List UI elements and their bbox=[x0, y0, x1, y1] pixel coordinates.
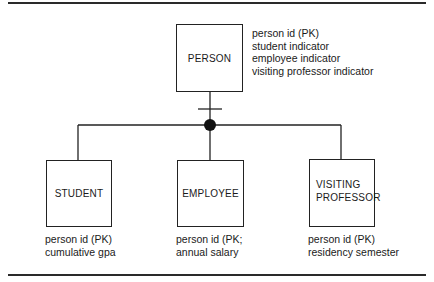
entity-name-line: VISITING bbox=[316, 178, 381, 191]
visiting-professor-attributes: person id (PK) residency semester bbox=[308, 233, 399, 258]
entity-name: PERSON bbox=[188, 52, 231, 65]
entity-name: VISITING PROFESSOR bbox=[316, 178, 381, 204]
attribute: residency semester bbox=[308, 246, 399, 259]
attribute: cumulative gpa bbox=[45, 246, 116, 259]
student-attributes: person id (PK) cumulative gpa bbox=[45, 233, 116, 258]
bottom-rule bbox=[8, 274, 426, 276]
entity-name-line: PROFESSOR bbox=[316, 191, 381, 204]
attribute: person id (PK) bbox=[45, 233, 116, 246]
attribute: visiting professor indicator bbox=[252, 65, 373, 78]
entity-student: STUDENT bbox=[46, 160, 112, 227]
entity-employee: EMPLOYEE bbox=[177, 160, 244, 227]
person-attributes: person id (PK) student indicator employe… bbox=[252, 27, 373, 77]
entity-name: EMPLOYEE bbox=[182, 187, 239, 200]
entity-visiting-professor: VISITING PROFESSOR bbox=[309, 159, 375, 227]
employee-attributes: person id (PK; annual salary bbox=[176, 233, 243, 258]
attribute: person id (PK) bbox=[308, 233, 399, 246]
entity-person: PERSON bbox=[176, 24, 243, 92]
attribute: person id (PK; bbox=[176, 233, 243, 246]
attribute: person id (PK) bbox=[252, 27, 373, 40]
attribute: employee indicator bbox=[252, 52, 373, 65]
category-circle bbox=[204, 119, 216, 131]
attribute: annual salary bbox=[176, 246, 243, 259]
attribute: student indicator bbox=[252, 40, 373, 53]
entity-name: STUDENT bbox=[55, 187, 104, 200]
